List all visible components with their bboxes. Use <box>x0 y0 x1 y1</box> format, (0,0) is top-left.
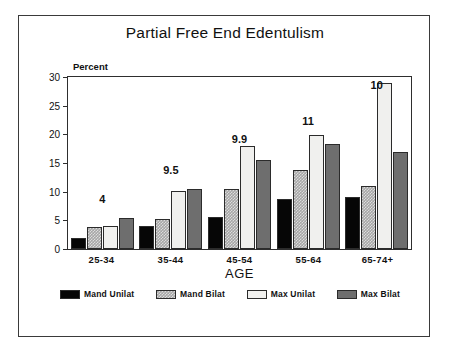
legend-label: Mand Bilat <box>180 289 225 299</box>
legend-item[interactable]: Max Bilat <box>337 289 400 299</box>
bar <box>277 199 292 249</box>
bar-group: 10 <box>342 77 411 249</box>
chart-legend: Mand UnilatMand BilatMax UnilatMax Bilat <box>60 289 400 299</box>
bar <box>87 227 102 249</box>
bar <box>208 217 223 249</box>
y-tick-mark <box>63 249 68 250</box>
bar-group: 4 <box>68 77 137 249</box>
bar <box>155 219 170 249</box>
bar <box>103 226 118 250</box>
legend-item[interactable]: Mand Unilat <box>60 289 134 299</box>
bar-group: 9.9 <box>205 77 274 249</box>
bar-group: 9.5 <box>137 77 206 249</box>
legend-item[interactable]: Max Unilat <box>247 289 316 299</box>
chart-title: Partial Free End Edentulism <box>0 24 450 42</box>
bar <box>345 197 360 249</box>
legend-label: Mand Unilat <box>84 289 134 299</box>
bar <box>325 144 340 249</box>
y-tick-label: 0 <box>34 244 60 255</box>
bar <box>377 83 392 249</box>
legend-swatch <box>247 290 267 299</box>
bar <box>393 152 408 249</box>
legend-swatch <box>156 290 176 299</box>
plot-area: 051015202530 49.59.91110 <box>67 76 412 250</box>
y-tick-label: 5 <box>34 215 60 226</box>
bar <box>293 170 308 249</box>
legend-swatch <box>60 290 80 299</box>
x-axis-label: AGE <box>67 266 412 281</box>
y-tick-label: 30 <box>34 72 60 83</box>
bar <box>187 189 202 249</box>
bar <box>71 238 86 249</box>
bar-group-annotation: 4 <box>99 193 105 205</box>
bar <box>309 135 324 249</box>
y-tick-label: 15 <box>34 158 60 169</box>
bar-group-annotation: 11 <box>302 115 314 127</box>
legend-label: Max Unilat <box>271 289 316 299</box>
bar-group-annotation: 9.5 <box>163 164 178 176</box>
bar <box>256 160 271 249</box>
bar <box>119 218 134 249</box>
bar <box>171 191 186 249</box>
bar <box>139 226 154 249</box>
bar-group-annotation: 10 <box>371 79 383 91</box>
legend-label: Max Bilat <box>361 289 400 299</box>
x-tick-label: 65-74+ <box>343 254 412 265</box>
legend-item[interactable]: Mand Bilat <box>156 289 225 299</box>
bar <box>224 189 239 249</box>
y-axis-label: Percent <box>73 61 108 72</box>
bar-group-annotation: 9.9 <box>232 133 247 145</box>
bar <box>240 146 255 249</box>
x-axis-ticks: 25-3435-4445-5455-6465-74+ <box>67 254 412 265</box>
y-tick-label: 25 <box>34 100 60 111</box>
chart-figure: Partial Free End Edentulism Percent 0510… <box>0 0 450 352</box>
bar <box>361 186 376 249</box>
y-tick-label: 10 <box>34 186 60 197</box>
y-tick-label: 20 <box>34 129 60 140</box>
bar-group: 11 <box>274 77 343 249</box>
x-tick-label: 45-54 <box>205 254 274 265</box>
x-tick-label: 25-34 <box>67 254 136 265</box>
plot-inner: 051015202530 49.59.91110 <box>68 77 411 249</box>
x-tick-label: 35-44 <box>136 254 205 265</box>
legend-swatch <box>337 290 357 299</box>
bar-groups: 49.59.91110 <box>68 77 411 249</box>
x-tick-label: 55-64 <box>274 254 343 265</box>
